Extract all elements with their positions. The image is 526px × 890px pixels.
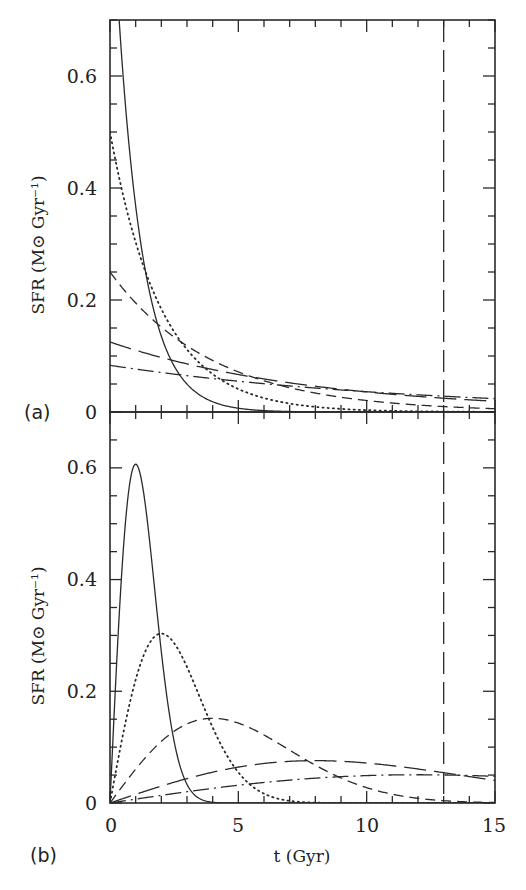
- xtick-15: 15: [482, 814, 506, 836]
- ytick-a-02: 0.2: [67, 289, 97, 311]
- panel-a-curves: [110, 0, 495, 412]
- curve-solid: [110, 464, 495, 803]
- ytick-b-0: 0: [85, 792, 97, 814]
- curve-dotted: [110, 634, 495, 803]
- curve-dash-dot: [110, 775, 495, 803]
- curve-short-dashed: [110, 272, 495, 409]
- panel-a-plot: [110, 0, 495, 412]
- xtick-0: 0: [105, 814, 117, 836]
- panel-b-plot: [110, 412, 495, 803]
- ytick-a-0: 0: [85, 401, 97, 423]
- ytick-b-04: 0.4: [67, 568, 97, 590]
- curve-solid: [110, 0, 495, 412]
- curve-dash-dot: [110, 365, 495, 398]
- ytick-b-06: 0.6: [67, 456, 97, 478]
- panel-b-label: (b): [30, 844, 57, 866]
- panel-a-label: (a): [24, 401, 50, 423]
- sfr-figure: 0 0.2 0.4 0.6 0 0.2 0.4 0.6 0 5 10 15 t …: [0, 0, 526, 890]
- ytick-a-06: 0.6: [67, 65, 97, 87]
- ytick-b-02: 0.2: [67, 680, 97, 702]
- xtick-10: 10: [355, 814, 379, 836]
- curve-long-dashed: [110, 761, 495, 803]
- panel-b-ticks: [110, 412, 495, 803]
- panel-b-frame: [110, 412, 495, 803]
- ytick-a-04: 0.4: [67, 177, 97, 199]
- x-axis-title: t (Gyr): [274, 846, 331, 866]
- y-axis-title-a: SFR (M⊙ Gyr⁻¹): [28, 175, 48, 314]
- panel-b-curves: [110, 412, 495, 803]
- xtick-5: 5: [232, 814, 244, 836]
- curve-dotted: [110, 132, 495, 412]
- y-axis-title-b: SFR (M⊙ Gyr⁻¹): [28, 566, 48, 705]
- curve-long-dashed: [110, 342, 495, 401]
